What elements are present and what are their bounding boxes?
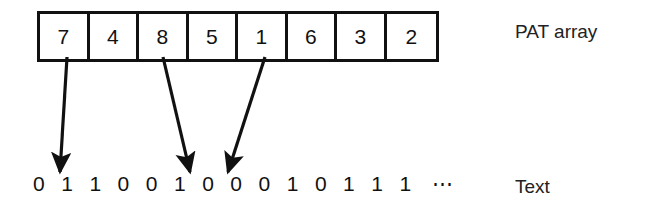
pat-array-cell: 4 — [90, 14, 140, 59]
text-bit: 0 — [259, 172, 287, 196]
text-bit: 1 — [371, 172, 399, 196]
text-bit: 1 — [89, 172, 117, 196]
text-bit: 1 — [343, 172, 371, 196]
text-label: Text — [515, 176, 550, 198]
pat-array-cell: 1 — [238, 14, 288, 59]
text-bit: 0 — [118, 172, 146, 196]
pat-array-cell: 8 — [139, 14, 189, 59]
pat-array: 7 4 8 5 1 6 3 2 — [37, 11, 439, 62]
text-bit: 0 — [230, 172, 258, 196]
pat-array-cell: 6 — [288, 14, 338, 59]
text-bit: 1 — [61, 172, 89, 196]
arrow-cell3-to-text — [163, 57, 190, 172]
text-bit: 1 — [287, 172, 315, 196]
text-bit: 0 — [315, 172, 343, 196]
text-bit: 0 — [146, 172, 174, 196]
pat-array-cell: 3 — [337, 14, 387, 59]
arrow-cell1-to-text — [60, 57, 67, 172]
text-bit: 0 — [202, 172, 230, 196]
pat-array-cell: 2 — [387, 14, 437, 59]
text-continuation-ellipsis: ⋯ — [428, 172, 454, 196]
pat-array-label: PAT array — [515, 21, 597, 43]
text-bit: 1 — [174, 172, 202, 196]
text-bit: 1 — [399, 172, 427, 196]
arrow-cell5-to-text — [228, 57, 265, 172]
pat-array-cell: 5 — [189, 14, 239, 59]
pat-array-cell: 7 — [40, 14, 90, 59]
text-bit-string: 0 1 1 0 0 1 0 0 0 1 0 1 1 1 ⋯ — [33, 172, 454, 196]
suffix-array-figure: 7 4 8 5 1 6 3 2 0 1 1 0 0 1 0 0 0 1 0 1 … — [0, 0, 665, 208]
text-bit: 0 — [33, 172, 61, 196]
